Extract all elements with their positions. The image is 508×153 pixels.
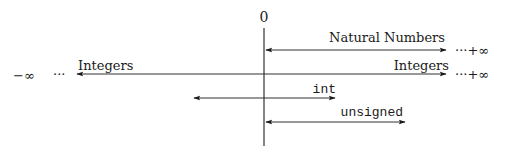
plus-infinity-label: ···+∞ bbox=[455, 43, 489, 58]
zero-label: 0 bbox=[260, 9, 269, 25]
integers-left-label: Integers bbox=[78, 58, 133, 73]
natural-numbers-range: Natural Numbers ···+∞ bbox=[266, 30, 489, 58]
integers-right-label: Integers bbox=[394, 58, 449, 73]
plus-infinity-label: ···+∞ bbox=[455, 67, 489, 82]
integers-range: Integers Integers −∞ ··· ···+∞ bbox=[13, 58, 489, 83]
unsigned-label: unsigned bbox=[341, 105, 403, 120]
left-ellipsis: ··· bbox=[53, 67, 65, 82]
int-label: int bbox=[313, 82, 336, 97]
natural-numbers-label: Natural Numbers bbox=[329, 30, 445, 45]
number-ranges-diagram: 0 Natural Numbers ···+∞ Integers Integer… bbox=[0, 0, 508, 153]
int-range: int bbox=[194, 82, 336, 98]
minus-infinity-label: −∞ bbox=[13, 68, 35, 83]
unsigned-range: unsigned bbox=[266, 105, 405, 122]
